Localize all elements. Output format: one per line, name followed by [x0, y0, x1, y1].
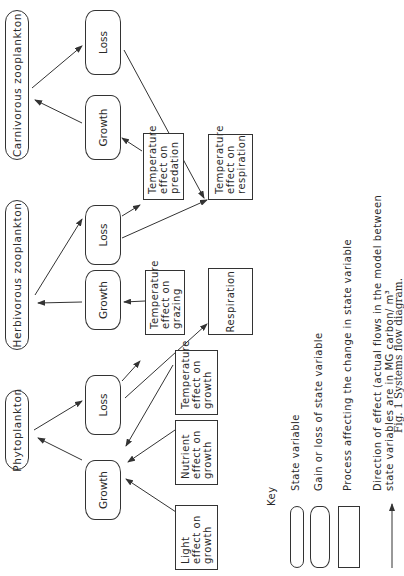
process-line: Light [180, 515, 191, 564]
key-title: Key [266, 486, 277, 506]
flux-phytoplankton-growth: Growth [85, 460, 121, 520]
process-respiration: Respiration [208, 268, 253, 335]
process-line: Nutrient [180, 430, 191, 479]
key-state-variable-shape [290, 506, 304, 568]
key-gain-loss-label: Gain or loss of state variable [313, 332, 324, 491]
flux-herbivorous-growth: Growth [85, 270, 121, 330]
flux-carnivorous-loss: Loss [85, 10, 121, 75]
process-line: effect on [225, 125, 236, 194]
process-line: predation [169, 125, 180, 194]
process-text: Temperature effect on predation [147, 125, 180, 194]
process-temperature-grazing: Temperature effect on grazing [145, 270, 185, 335]
process-line: effect on [158, 125, 169, 194]
process-text: Light effect on growth [180, 515, 213, 564]
flux-label: Growth [97, 109, 109, 147]
process-text: Temperature effect on growth [180, 340, 213, 409]
flux-label: Loss [97, 31, 109, 54]
process-line: effect on [160, 260, 171, 329]
key-process-shape [338, 506, 360, 568]
state-herbivorous-zooplankton: Herbivorous zooplankton [5, 200, 29, 350]
process-line: growth [202, 430, 213, 479]
process-text: Temperature effect on respiration [214, 125, 247, 194]
process-temperature-growth: Temperature effect on growth [175, 350, 218, 415]
process-nutrient-growth: Nutrient effect on growth [175, 420, 218, 485]
process-line: growth [202, 340, 213, 409]
state-carnivorous-zooplankton: Carnivorous zooplankton [5, 10, 29, 160]
flux-label: Loss [97, 393, 109, 416]
flux-label: Growth [97, 471, 109, 509]
process-line: Temperature [149, 260, 160, 329]
process-line: effect on [191, 340, 202, 409]
flux-phytoplankton-loss: Loss [85, 375, 121, 435]
systems-flow-diagram: Carnivorous zooplankton Herbivorous zoop… [0, 0, 404, 576]
flux-carnivorous-growth: Growth [85, 95, 121, 160]
process-text: Temperature effect on grazing [149, 260, 182, 329]
state-label: Herbivorous zooplankton [11, 203, 23, 348]
process-line: Respiration [225, 271, 236, 333]
key-gain-loss-shape [310, 506, 330, 568]
process-light-growth: Light effect on growth [175, 505, 218, 570]
key-state-variable-label: State variable [290, 414, 301, 491]
flux-label: Loss [97, 223, 109, 246]
process-line: Temperature [214, 125, 225, 194]
key-direction-label-1: Direction of effect (actual flows in the… [372, 195, 383, 491]
process-line: effect on [191, 515, 202, 564]
state-phytoplankton: Phytoplankton [5, 390, 29, 470]
process-temperature-predation: Temperature effect on predation [143, 133, 184, 200]
state-label: Phytoplankton [11, 388, 23, 472]
process-line: Temperature [180, 340, 191, 409]
figure-caption: Fig. 1 Systems flow diagram. [392, 278, 404, 433]
state-label: Carnivorous zooplankton [11, 13, 23, 157]
flux-label: Growth [97, 281, 109, 319]
process-line: Temperature [147, 125, 158, 194]
process-line: growth [202, 515, 213, 564]
flux-herbivorous-loss: Loss [85, 205, 121, 265]
key-process-label: Process affecting the change in state va… [342, 239, 353, 491]
process-text: Nutrient effect on growth [180, 430, 213, 479]
process-line: effect on [191, 430, 202, 479]
process-line: grazing [171, 260, 182, 329]
process-temperature-respiration: Temperature effect on respiration [208, 134, 253, 200]
process-line: respiration [236, 125, 247, 194]
